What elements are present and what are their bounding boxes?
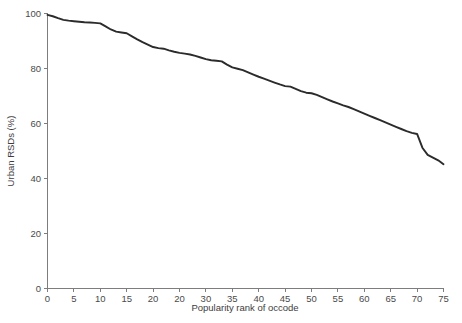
y-tick-label: 20 <box>30 228 41 239</box>
x-tick-label: 55 <box>333 293 344 304</box>
y-axis-ticks: 020406080100 <box>25 8 47 294</box>
chart-figure: 020406080100 051015202030354045505560657… <box>0 0 462 323</box>
x-tick-label: 65 <box>385 293 396 304</box>
line-chart-svg: 020406080100 051015202030354045505560657… <box>0 0 462 323</box>
chart-axes <box>48 14 444 289</box>
y-tick-label: 100 <box>25 8 41 19</box>
x-tick-label: 0 <box>45 293 50 304</box>
x-tick-label: 70 <box>412 293 423 304</box>
x-tick-label: 10 <box>95 293 106 304</box>
x-tick-label: 15 <box>121 293 132 304</box>
y-tick-label: 60 <box>30 118 41 129</box>
x-tick-label: 20 <box>148 293 159 304</box>
x-tick-label: 75 <box>438 293 449 304</box>
y-axis-title: Urban RSDs (%) <box>5 116 16 187</box>
y-tick-label: 40 <box>30 173 41 184</box>
data-line-urban-rsds <box>48 15 444 164</box>
x-tick-label: 50 <box>306 293 317 304</box>
x-tick-label: 60 <box>359 293 370 304</box>
x-tick-label: 5 <box>71 293 76 304</box>
y-tick-label: 80 <box>30 63 41 74</box>
data-series-group <box>48 15 444 164</box>
x-axis-title: Popularity rank of occode <box>191 302 298 313</box>
x-tick-label: 20 <box>174 293 185 304</box>
y-tick-label: 0 <box>36 283 41 294</box>
